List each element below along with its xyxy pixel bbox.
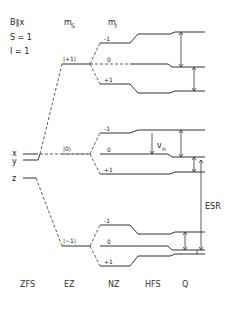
ez-state-zero: |0⟩ <box>63 145 71 153</box>
mi-column-label: m I <box>108 18 117 29</box>
esr-label: ESR <box>205 202 221 211</box>
manifold-zero: -1 0 +1 ν n <box>90 125 205 174</box>
manifold-plus: -1 0 +1 <box>90 32 205 93</box>
energy-level-diagram: B∥x S = 1 I = 1 m S m I x y z |+1⟩ |0⟩ |… <box>0 0 232 309</box>
mi-zero-top: 0 <box>107 56 111 63</box>
mi-minus-mid: -1 <box>104 125 110 132</box>
zfs-ez-connectors <box>36 64 90 246</box>
ez-levels: |+1⟩ |0⟩ |−1⟩ <box>62 55 90 246</box>
svg-text:I: I <box>115 22 117 29</box>
svg-text:S: S <box>71 22 75 29</box>
mi-zero-mid: 0 <box>107 146 111 153</box>
esr-transition: ESR <box>199 160 221 250</box>
ms-column-label: m S <box>64 18 75 29</box>
stage-label-q: Q <box>182 280 188 289</box>
manifold-minus: -1 0 +1 <box>90 217 205 266</box>
mi-plus-bottom: +1 <box>104 258 113 265</box>
zfs-level-y: y <box>12 157 17 166</box>
ez-state-minus: |−1⟩ <box>63 237 76 245</box>
mi-zero-bottom: 0 <box>107 238 111 245</box>
zfs-level-z: z <box>12 174 16 183</box>
mi-plus-top: +1 <box>104 76 113 83</box>
stage-label-zfs: ZFS <box>20 280 35 289</box>
field-direction-label: B∥x <box>10 18 24 27</box>
stage-label-ez: EZ <box>64 280 75 289</box>
mi-plus-mid: +1 <box>104 166 113 173</box>
ez-state-plus: |+1⟩ <box>63 55 76 63</box>
electron-spin-label: S = 1 <box>10 33 32 42</box>
nuclear-spin-label: I = 1 <box>10 47 29 56</box>
stage-label-nz: NZ <box>108 280 120 289</box>
svg-text:n: n <box>162 145 166 152</box>
mi-minus-top: -1 <box>104 35 110 42</box>
stage-labels: ZFS EZ NZ HFS Q <box>20 280 188 289</box>
zfs-levels: x y z <box>12 149 40 183</box>
nuclear-frequency-label: ν n <box>157 141 166 152</box>
stage-label-hfs: HFS <box>145 280 161 289</box>
mi-minus-bottom: -1 <box>104 217 110 224</box>
